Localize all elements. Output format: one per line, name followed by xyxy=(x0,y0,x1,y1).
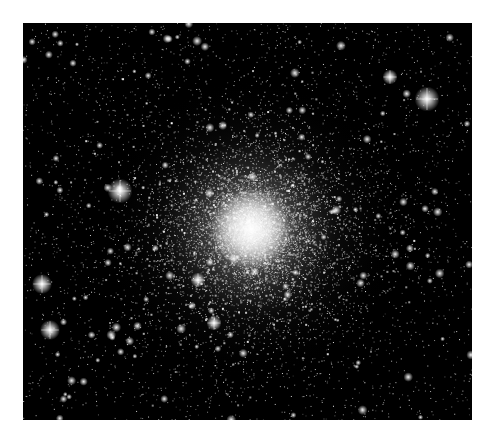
starfield-canvas xyxy=(23,23,472,420)
star-cluster-photo: Dense globular star cluster on a black s… xyxy=(23,23,472,420)
